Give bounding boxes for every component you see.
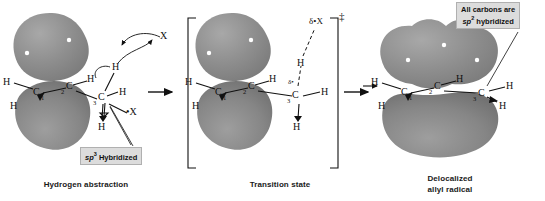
ts-atom-index-c2: 2 [243, 88, 246, 95]
ts-atom-label-c3: C [292, 89, 299, 100]
ts-atom-label-h-c1-down: H [192, 100, 199, 111]
atom-label-h-c1-up: H [3, 76, 10, 87]
sp2-hybridized-callout: All carbons are sp2 hybridized [456, 2, 520, 29]
atom-label-h-c3-right: H [119, 86, 126, 97]
product-atom-label-c1: C [401, 86, 408, 97]
product-atom-label-c2: C [434, 80, 441, 91]
ts-atom-index-c1: 1 [223, 94, 226, 101]
ts-atom-label-c1: C [215, 86, 222, 97]
caption-delocalized-line2: allyl radical [395, 185, 505, 195]
double-dagger-symbol: ‡ [339, 10, 345, 22]
ts-atom-label-h-c2: H [269, 73, 276, 84]
atom-label-h-c1-down: H [10, 100, 17, 111]
product-atom-label-h-c3-down: H [499, 100, 506, 111]
caption-hydrogen-abstraction: Hydrogen abstraction [16, 180, 156, 190]
atom-label-c2: C [66, 80, 73, 91]
radical-x-label: •X [126, 106, 137, 117]
sp2-callout-line1: All carbons are [461, 5, 515, 14]
atom-index-c1: 1 [41, 94, 44, 101]
product-atom-index-c2: 2 [429, 88, 432, 95]
ts-transferring-hydrogen: H [297, 57, 304, 68]
transition-state-orbital-lobes [195, 13, 272, 150]
caption-transition-state: Transition state [225, 180, 335, 190]
product-atom-index-c1: 1 [409, 94, 412, 101]
atom-label-c3: C [98, 91, 105, 102]
atom-index-c3: 3 [93, 99, 96, 106]
sp2-callout-line2: hybridized [474, 17, 514, 26]
product-atom-label-h-c2: H [456, 73, 463, 84]
ts-delta-radical-c3: δ• [288, 78, 294, 86]
product-atom-label-h-c1-down: H [378, 100, 385, 111]
diagram-vector-layer [0, 0, 545, 201]
sp3-callout-sp: sp [85, 153, 94, 162]
curved-electron-arrow-reactant [122, 34, 160, 45]
product-atom-label-c3: C [478, 87, 485, 98]
reactant-orbital-lobes [13, 13, 90, 150]
sp3-hybridized-callout: sp3 Hybridized [80, 147, 142, 165]
atom-index-c2: 2 [61, 88, 64, 95]
incoming-x-label: X [160, 30, 167, 41]
product-atom-index-c3: 3 [473, 95, 476, 102]
ts-atom-index-c3: 3 [287, 97, 290, 104]
sp3-callout-text: Hybridized [97, 153, 137, 162]
ts-delta-x-label: δ•X [309, 16, 323, 26]
figure-canvas: H H C 1 C 2 H C 3 H H H •X X sp3 Hybridi… [0, 0, 545, 201]
sp2-callout-sp: sp [462, 17, 471, 26]
atom-label-h-c2: H [87, 73, 94, 84]
ts-atom-label-h-c1-up: H [185, 76, 192, 87]
product-atom-label-h-c1-up: H [371, 76, 378, 87]
atom-label-c1: C [33, 86, 40, 97]
caption-delocalized-line1: Delocalized [395, 174, 505, 184]
ts-atom-label-h-c3-right: H [321, 86, 328, 97]
product-atom-label-h-c3-up: H [506, 80, 513, 91]
ts-atom-label-h-c3-down: H [293, 121, 300, 132]
atom-label-h-c3-down: H [98, 121, 105, 132]
atom-label-h-c3-up: H [112, 61, 119, 72]
ts-atom-label-c2: C [248, 80, 255, 91]
